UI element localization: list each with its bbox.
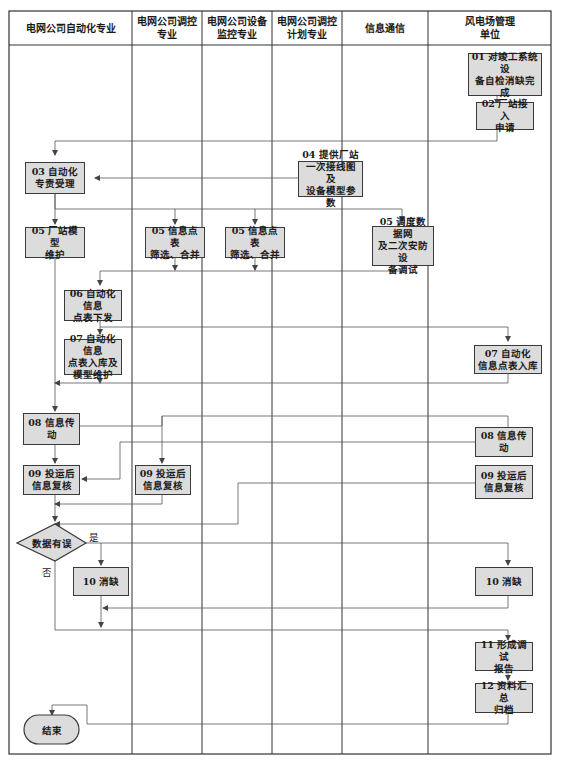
step-05-point-table-dispatch: 05 信息点表 筛选、合并 (145, 227, 205, 258)
edge-label-yes: 是 (89, 530, 99, 544)
lane-header-windfarm: 风电场管理 单位 (428, 11, 551, 45)
swimlane-flowchart: 电网公司自动化专业 电网公司调控 专业 电网公司设备 监控专业 电网公司调控 计… (0, 0, 561, 764)
step-09-review-windfarm: 09 投运后 信息复核 (475, 465, 533, 499)
lane-header-dispatch-planning: 电网公司调控 计划专业 (272, 11, 342, 45)
step-08-signal-test: 08 信息传动 (23, 413, 80, 445)
step-03-accept: 03 自动化 专责受理 (25, 162, 85, 194)
lane-header-equipment-monitoring: 电网公司设备 监控专业 (202, 11, 272, 45)
step-05-network-security: 05 调度数据网 及二次安防设 备调试 (372, 226, 434, 266)
lane-header-dispatch-control: 电网公司调控 专业 (132, 11, 202, 45)
step-12-archive: 12 资料汇总 归档 (475, 683, 533, 713)
step-08-signal-test-windfarm: 08 信息传动 (475, 427, 533, 457)
step-07-point-table-store-model: 07 自动化信息 点表入库及 模型维护 (64, 339, 122, 375)
step-10-fix-windfarm: 10 消缺 (475, 567, 533, 596)
step-05-station-model: 05 厂站模型 维护 (25, 227, 85, 258)
end-label: 结束 (24, 723, 79, 737)
step-04-provide-diagrams: 04 提供厂站 一次接线图及 设备模型参数 (298, 161, 363, 197)
step-05-point-table-monitoring: 05 信息点表 筛选、合并 (225, 227, 285, 258)
step-11-test-report: 11 形成调试 报告 (475, 642, 533, 671)
decision-label: 数据有误 (17, 536, 86, 550)
lane-header-automation: 电网公司自动化专业 (9, 11, 132, 45)
step-10-fix-dispatch: 10 消缺 (73, 567, 129, 596)
step-01-self-check: 01 对竣工系统设 备自检消缺完成 (468, 53, 542, 96)
step-09-review-automation: 09 投运后 信息复核 (23, 465, 80, 495)
step-06-point-table-issue: 06 自动化信息 点表下发 (64, 290, 122, 321)
edge-label-no: 否 (42, 565, 52, 579)
step-02-access-request: 02 厂站接入 申请 (476, 102, 534, 130)
lane-header-info-comm: 信息通信 (342, 11, 428, 45)
step-07-point-table-store-windfarm: 07 自动化 信息点表入库 (474, 345, 542, 374)
step-09-review-dispatch: 09 投运后 信息复核 (135, 465, 191, 495)
